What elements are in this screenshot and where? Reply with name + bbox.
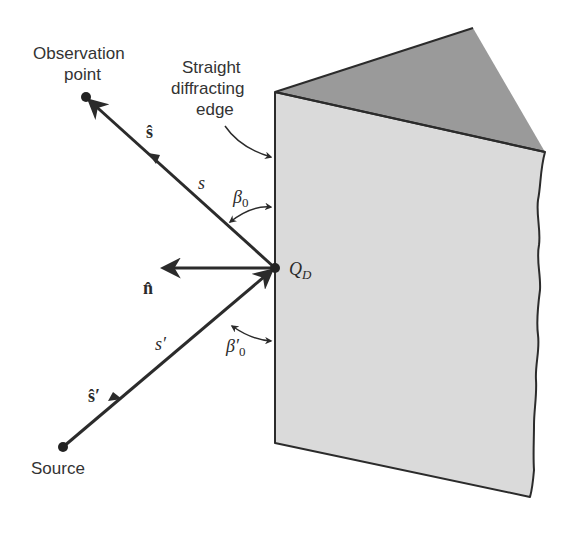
s-prime-label: s′ xyxy=(155,334,167,354)
QD-subscript: D xyxy=(301,267,312,282)
s-hat-label: ŝ xyxy=(146,122,153,142)
source-point-dot xyxy=(58,442,68,452)
observation-point-dot xyxy=(81,92,91,102)
ray-s xyxy=(90,101,275,268)
observation-point-label-line2: point xyxy=(64,65,101,84)
s-hat-prime-label: ŝ′ xyxy=(88,386,100,406)
beta0-prime-symbol: β′ xyxy=(225,336,240,356)
diffraction-point-QD-dot xyxy=(270,263,280,273)
diffraction-diagram: Observation point Straight diffracting e… xyxy=(0,0,574,534)
n-hat-label: n̂ xyxy=(143,278,153,298)
ray-s-prime xyxy=(63,271,271,447)
edge-label-line1: Straight xyxy=(182,58,241,77)
beta0-prime-subscript: 0 xyxy=(239,344,246,359)
s-label: s xyxy=(198,173,205,193)
beta0-prime-label: β′0 xyxy=(225,336,245,359)
beta0-label: β0 xyxy=(232,187,248,210)
edge-pointer-arrow xyxy=(225,126,271,157)
edge-label-line2: diffracting xyxy=(171,79,244,98)
beta0-subscript: 0 xyxy=(242,195,249,210)
QD-symbol: Q xyxy=(289,259,302,279)
beta0-arc xyxy=(230,207,271,222)
edge-label-line3: edge xyxy=(196,100,234,119)
source-label: Source xyxy=(31,459,85,478)
observation-point-label-line1: Observation xyxy=(33,44,125,63)
beta0-symbol: β xyxy=(232,187,242,207)
wedge-front-face xyxy=(275,92,545,497)
